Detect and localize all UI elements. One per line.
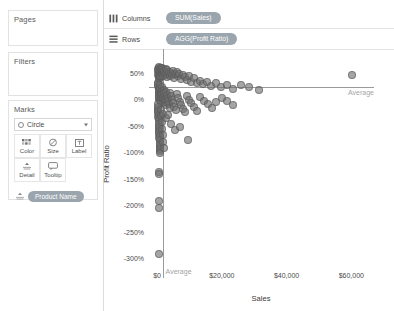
scatter-point[interactable] — [245, 83, 253, 91]
scatter-point[interactable] — [155, 250, 163, 258]
marks-card[interactable]: Marks Circle — [8, 100, 98, 200]
marks-card-title: Marks — [9, 101, 97, 116]
y-axis-tick: 50% — [130, 69, 144, 76]
columns-shelf[interactable]: Columns SUM(Sales) — [104, 8, 394, 29]
tooltip-icon — [48, 162, 59, 171]
y-axis-tick: -200% — [124, 202, 144, 209]
rows-shelf[interactable]: Rows AGG(Profit Ratio) — [104, 29, 394, 50]
y-axis-title: Profit Ratio — [102, 145, 111, 183]
marks-size-label: Size — [47, 148, 59, 154]
marks-tooltip-label: Tooltip — [44, 172, 61, 178]
rows-shelf-pill[interactable]: AGG(Profit Ratio) — [166, 33, 237, 45]
scatter-point[interactable] — [193, 107, 201, 115]
columns-shelf-label: Columns — [122, 14, 162, 23]
tableau-worksheet: Pages Filters Marks Circle — [0, 0, 394, 311]
detail-icon — [15, 187, 25, 205]
left-sidebar: Pages Filters Marks Circle — [0, 0, 104, 311]
color-palette-icon — [22, 138, 33, 147]
marks-label-button[interactable]: Label — [66, 134, 92, 158]
marks-grid-spacer — [66, 158, 92, 182]
scatter-point[interactable] — [184, 136, 192, 144]
x-axis-title: Sales — [252, 294, 271, 303]
product-name-pill[interactable]: Product Name — [28, 191, 84, 202]
marks-size-button[interactable]: Size — [40, 134, 66, 158]
scatter-point[interactable] — [229, 101, 237, 109]
marks-tooltip-button[interactable]: Tooltip — [40, 158, 66, 182]
x-axis-tick: $60,000 — [339, 272, 364, 279]
y-axis-tick: -150% — [124, 175, 144, 182]
reference-line-label: Average — [166, 268, 192, 275]
x-axis-tick: $20,000 — [209, 272, 234, 279]
filters-card[interactable]: Filters — [8, 52, 98, 96]
filters-card-title: Filters — [9, 53, 97, 68]
scatter-point[interactable] — [348, 71, 356, 79]
scatter-point[interactable] — [155, 170, 163, 178]
y-axis-tick: -100% — [124, 149, 144, 156]
pages-card[interactable]: Pages — [8, 10, 98, 46]
y-axis-tick: 0% — [134, 96, 144, 103]
mark-type-select[interactable]: Circle — [14, 118, 92, 131]
label-icon — [74, 138, 85, 147]
y-axis-tick: -50% — [128, 122, 144, 129]
marks-color-button[interactable]: Color — [14, 134, 40, 158]
x-axis-tick: $40,000 — [274, 272, 299, 279]
rows-icon — [109, 35, 118, 44]
scatter-point[interactable] — [164, 111, 172, 119]
pages-card-title: Pages — [9, 11, 97, 26]
size-icon — [48, 138, 59, 147]
scatter-plot[interactable]: 50%0%-50%-100%-150%-200%-250%-300%$0$20,… — [149, 61, 374, 266]
circle-icon — [18, 122, 24, 128]
marks-button-grid: Color Size — [14, 134, 92, 182]
scatter-point[interactable] — [255, 86, 263, 94]
marks-color-label: Color — [20, 148, 34, 154]
scatter-point[interactable] — [160, 144, 168, 152]
columns-shelf-pill[interactable]: SUM(Sales) — [166, 12, 221, 24]
y-axis-tick: -300% — [124, 255, 144, 262]
chevron-down-icon[interactable] — [84, 123, 88, 126]
scatter-point[interactable] — [176, 123, 184, 131]
rows-shelf-label: Rows — [122, 35, 162, 44]
marks-label-label: Label — [72, 148, 87, 154]
mark-type-label: Circle — [27, 121, 44, 128]
columns-icon — [109, 14, 118, 23]
y-axis-tick: -250% — [124, 228, 144, 235]
reference-line-label: Average — [348, 89, 374, 96]
marks-detail-pill-row: Product Name — [15, 187, 92, 205]
x-axis-tick: $0 — [153, 272, 161, 279]
scatter-point[interactable] — [237, 81, 245, 89]
marks-detail-button[interactable]: Detail — [14, 158, 40, 182]
scatter-point[interactable] — [181, 108, 189, 116]
detail-icon — [22, 162, 33, 171]
marks-detail-label: Detail — [19, 172, 34, 178]
scatter-point[interactable] — [155, 204, 163, 212]
chart-view[interactable]: Profit Ratio Sales 50%0%-50%-100%-150%-2… — [104, 51, 394, 311]
